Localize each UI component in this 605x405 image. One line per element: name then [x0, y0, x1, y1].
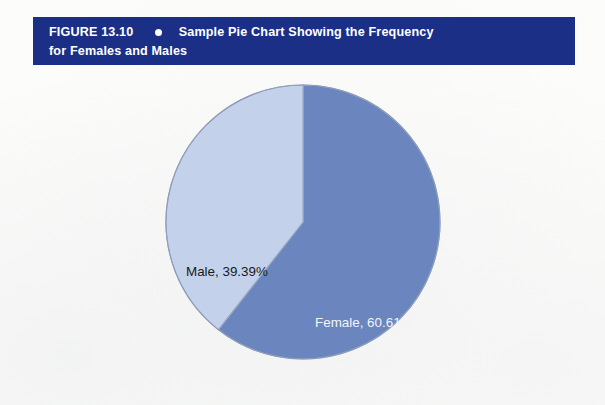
- figure-title-line-1: Sample Pie Chart Showing the Frequency: [179, 23, 434, 42]
- pie-label-male: Male, 39.39%: [186, 264, 268, 279]
- figure-page: FIGURE 13.10 Sample Pie Chart Showing th…: [0, 0, 605, 405]
- figure-caption-banner: FIGURE 13.10 Sample Pie Chart Showing th…: [33, 17, 575, 65]
- caption-first-line: FIGURE 13.10 Sample Pie Chart Showing th…: [49, 23, 575, 42]
- pie-chart-area: Male, 39.39% Female, 60.61%: [0, 66, 605, 405]
- figure-number-label: FIGURE 13.10: [49, 23, 133, 42]
- pie-label-female: Female, 60.61%: [315, 315, 413, 330]
- figure-title-line-2: for Females and Males: [49, 42, 575, 61]
- bullet-dot-icon: [155, 29, 162, 36]
